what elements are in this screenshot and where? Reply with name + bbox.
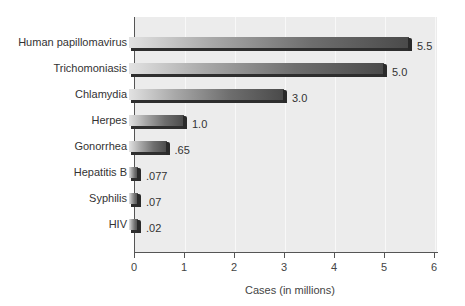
bar-face: [129, 89, 284, 100]
category-label: Hepatitis B: [0, 166, 127, 178]
category-label: Gonorrhea: [0, 140, 127, 152]
x-tick-label: 1: [174, 261, 194, 273]
gridline: [335, 17, 336, 252]
bar-end-cap: [183, 116, 187, 129]
bar-end-cap: [137, 194, 141, 207]
bar-end-cap: [383, 64, 387, 77]
value-label: .077: [146, 170, 167, 182]
bar-bottom-edge: [131, 126, 187, 129]
category-label: Human papillomavirus: [0, 36, 127, 48]
category-label: Herpes: [0, 114, 127, 126]
gridline: [185, 17, 186, 252]
bar-bottom-edge: [131, 100, 287, 103]
x-tick: [234, 252, 235, 258]
gridline: [285, 17, 286, 252]
value-label: 5.0: [392, 66, 407, 78]
bar-end-cap: [137, 220, 141, 233]
y-axis-line: [134, 17, 135, 253]
x-tick-label: 6: [424, 261, 444, 273]
x-tick: [434, 252, 435, 258]
gridline: [385, 17, 386, 252]
bar: [129, 115, 187, 129]
x-tick-label: 0: [124, 261, 144, 273]
x-tick: [284, 252, 285, 258]
x-tick-label: 5: [374, 261, 394, 273]
x-tick: [184, 252, 185, 258]
bar-face: [129, 115, 184, 126]
bar-face: [129, 63, 384, 74]
x-tick: [134, 252, 135, 258]
bar-bottom-edge: [131, 48, 412, 51]
bar: [129, 37, 412, 51]
bar: [129, 89, 287, 103]
bar-face: [129, 141, 167, 152]
category-label: Syphilis: [0, 192, 127, 204]
bar-face: [129, 37, 409, 48]
gridline: [435, 17, 436, 252]
x-tick-label: 2: [224, 261, 244, 273]
bar-end-cap: [137, 168, 141, 181]
bar: [129, 63, 387, 77]
gridline: [235, 17, 236, 252]
x-axis-line: [134, 252, 438, 253]
value-label: .07: [146, 196, 161, 208]
bar: [129, 219, 141, 233]
category-label: Chlamydia: [0, 88, 127, 100]
x-tick-label: 4: [324, 261, 344, 273]
bar: [129, 193, 141, 207]
x-axis-label: Cases (in millions): [245, 284, 335, 296]
bar-end-cap: [166, 142, 170, 155]
bar-bottom-edge: [131, 152, 170, 155]
bar: [129, 167, 141, 181]
plot-area: [135, 17, 437, 252]
value-label: .65: [175, 144, 190, 156]
bar-end-cap: [283, 90, 287, 103]
bar-bottom-edge: [131, 74, 387, 77]
value-label: .02: [146, 222, 161, 234]
category-label: HIV: [0, 218, 127, 230]
x-tick-label: 3: [274, 261, 294, 273]
bar: [129, 141, 170, 155]
x-tick: [334, 252, 335, 258]
bar-end-cap: [408, 38, 412, 51]
value-label: 5.5: [417, 40, 432, 52]
category-label: Trichomoniasis: [0, 62, 127, 74]
value-label: 1.0: [192, 118, 207, 130]
x-tick: [384, 252, 385, 258]
value-label: 3.0: [292, 92, 307, 104]
